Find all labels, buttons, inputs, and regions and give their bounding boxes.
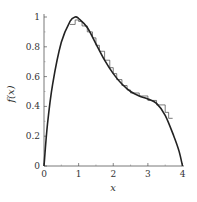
y-tick-label: 0.6 xyxy=(26,72,41,82)
x-tick-label: 4 xyxy=(180,169,186,179)
x-tick-label: 1 xyxy=(76,169,82,179)
chart: 00.20.40.60.81 01234 x f(x) xyxy=(0,0,197,202)
y-tick-label: 0.4 xyxy=(26,101,41,111)
x-tick-label: 0 xyxy=(41,169,47,179)
x-tick-label: 3 xyxy=(145,169,151,179)
smooth-curve xyxy=(44,17,183,166)
y-tick-label: 1 xyxy=(34,12,40,22)
x-axis: 01234 xyxy=(41,163,186,179)
y-tick-label: 0.2 xyxy=(26,131,40,141)
y-tick-label: 0.8 xyxy=(26,42,41,52)
x-tick-label: 2 xyxy=(110,169,116,179)
y-axis-label: f(x) xyxy=(5,85,16,103)
y-axis: 00.20.40.60.81 xyxy=(26,12,47,171)
x-axis-label: x xyxy=(110,182,116,193)
y-tick-label: 0 xyxy=(34,161,40,171)
